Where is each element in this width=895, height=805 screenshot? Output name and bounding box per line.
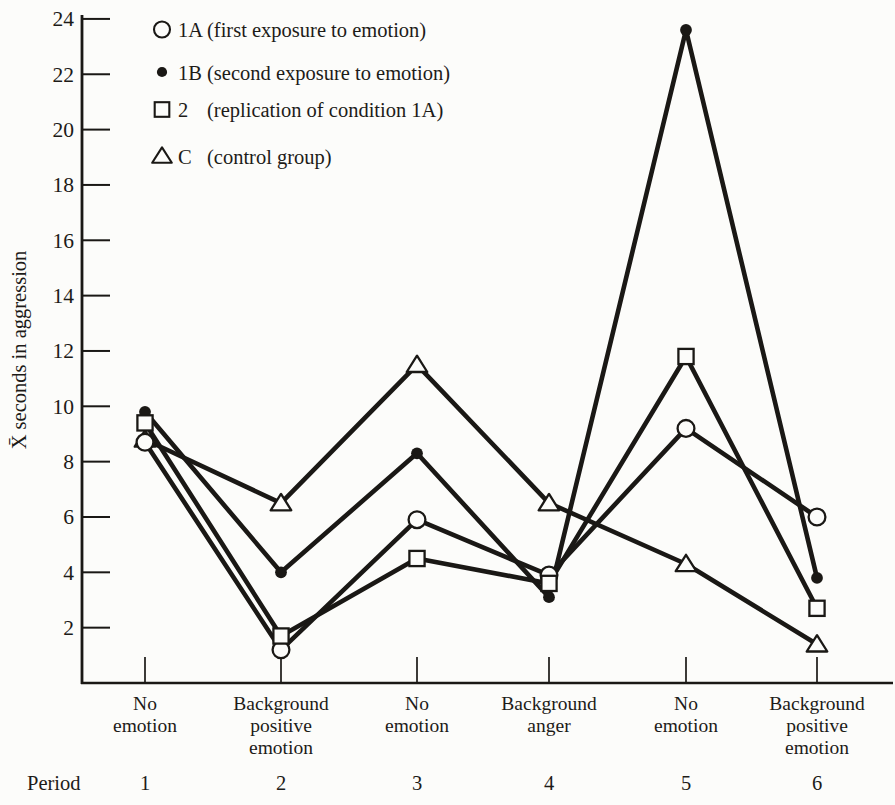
legend-label: 1A(first exposure to emotion): [178, 19, 426, 42]
legend-item-1A: 1A(first exposure to emotion): [154, 19, 426, 42]
x-axis: [81, 657, 893, 683]
period-number-1: 1: [140, 772, 150, 794]
period-row: Period123456: [27, 772, 822, 794]
category-label-period-2: Backgroundpositiveemotion: [233, 693, 329, 758]
marker-1B-period-4: [543, 591, 555, 603]
legend-item-1B: 1B(second exposure to emotion): [157, 62, 450, 85]
category-label-period-4: Backgroundanger: [501, 693, 597, 736]
y-tick-label: 12: [53, 339, 75, 363]
marker-2-period-6: [809, 601, 824, 616]
marker-1B-period-3: [411, 447, 423, 459]
marker-2-period-5: [678, 349, 693, 364]
marker-1B-period-6: [811, 572, 823, 584]
legend-label: C(control group): [178, 146, 332, 169]
marker-1A-period-6: [809, 509, 826, 526]
marker-1B-period-2: [275, 566, 287, 578]
open-circle-icon: [154, 22, 170, 38]
series-1A-line: [145, 428, 817, 649]
y-axis-title: X̄ seconds in aggression: [8, 251, 31, 450]
marker-C-period-3: [407, 356, 428, 372]
category-label-period-3: Noemotion: [385, 693, 449, 736]
y-tick-label: 14: [53, 284, 75, 308]
y-tick-label: 10: [53, 395, 75, 419]
category-label-period-1: Noemotion: [113, 693, 177, 736]
category-label-period-6: Backgroundpositiveemotion: [769, 693, 865, 758]
aggression-line-chart-figure: 24222018161412108642X̄ seconds in aggres…: [0, 0, 895, 805]
series-2-markers: [137, 349, 824, 644]
open-triangle-icon: [152, 147, 172, 162]
category-label-period-5: Noemotion: [654, 693, 718, 736]
marker-1A-period-1: [137, 434, 154, 451]
y-tick-label: 6: [63, 505, 74, 529]
open-square-icon: [155, 102, 170, 117]
series-C-markers: [135, 356, 828, 652]
legend-label: 1B(second exposure to emotion): [178, 62, 450, 85]
series-C-line: [145, 365, 817, 645]
marker-1A-period-3: [409, 511, 426, 528]
legend-item-2: 2(replication of condition 1A): [155, 99, 444, 122]
marker-2-period-1: [137, 415, 152, 430]
marker-2-period-2: [273, 628, 288, 643]
y-tick-label: 4: [63, 561, 74, 585]
period-row-label: Period: [27, 772, 81, 794]
period-number-3: 3: [412, 772, 422, 794]
period-number-6: 6: [812, 772, 822, 794]
legend: 1A(first exposure to emotion)1B(second e…: [152, 19, 450, 169]
series-1A-markers: [137, 420, 826, 658]
condition-labels: NoemotionBackgroundpositiveemotionNoemot…: [113, 693, 865, 758]
y-tick-label: 24: [53, 7, 75, 31]
y-tick-label: 20: [53, 118, 75, 142]
legend-item-C: C(control group): [152, 146, 331, 169]
period-number-4: 4: [544, 772, 554, 794]
y-tick-label: 22: [53, 63, 75, 87]
y-tick-label: 2: [63, 616, 74, 640]
marker-2-period-4: [541, 576, 556, 591]
period-number-2: 2: [276, 772, 286, 794]
marker-1A-period-5: [678, 420, 695, 437]
y-tick-label: 18: [53, 173, 75, 197]
marker-1B-period-5: [680, 24, 692, 36]
marker-2-period-3: [409, 551, 424, 566]
filled-circle-icon: [157, 67, 167, 77]
period-number-5: 5: [681, 772, 691, 794]
legend-label: 2(replication of condition 1A): [178, 99, 443, 122]
aggression-line-chart: 24222018161412108642X̄ seconds in aggres…: [0, 0, 895, 805]
y-tick-label: 8: [63, 450, 74, 474]
y-tick-label: 16: [53, 229, 75, 253]
y-axis: 24222018161412108642X̄ seconds in aggres…: [8, 7, 110, 684]
